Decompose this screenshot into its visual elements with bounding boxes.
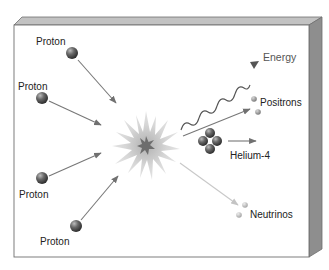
proton-label: Proton — [40, 237, 69, 247]
positrons-label: Positrons — [260, 98, 302, 108]
proton-label: Proton — [18, 82, 47, 92]
proton-label: Proton — [19, 190, 48, 200]
proton-sphere-icon — [66, 47, 78, 59]
proton-sphere-icon — [36, 92, 48, 104]
helium-label: Helium-4 — [230, 151, 270, 161]
energy-label: Energy — [263, 52, 296, 63]
proton-label: Proton — [36, 37, 65, 47]
proton-sphere-icon — [70, 220, 82, 232]
fusion-diagram: Proton Proton Proton Proton Energy Posit… — [0, 0, 329, 270]
proton-sphere-icon — [36, 172, 48, 184]
neutrinos-label: Neutrinos — [250, 210, 293, 220]
